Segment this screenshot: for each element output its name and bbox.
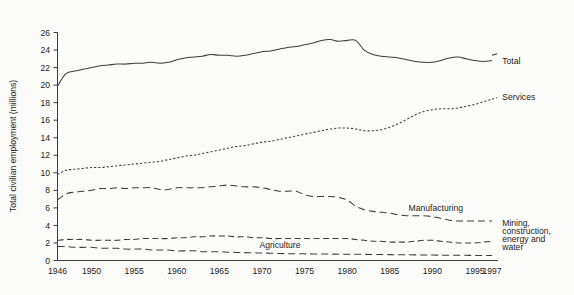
x-tick-label: 1975 <box>295 266 314 276</box>
y-tick-label: 12 <box>40 150 50 160</box>
x-tick-label: 1960 <box>167 266 186 276</box>
y-tick-label: 18 <box>40 98 50 108</box>
series-label-services: Services <box>502 92 535 102</box>
y-tick-label: 10 <box>40 168 50 178</box>
x-tick-label: 1965 <box>210 266 229 276</box>
y-tick-label: 2 <box>45 238 50 248</box>
x-tick-label: 1990 <box>423 266 442 276</box>
series-label-manufacturing: Manufacturing <box>409 203 464 213</box>
x-tick-label: 1970 <box>252 266 271 276</box>
y-tick-label: 4 <box>45 221 50 231</box>
series-label-agriculture: Agriculture <box>259 240 300 250</box>
y-tick-label: 6 <box>45 203 50 213</box>
y-tick-label: 20 <box>40 80 50 90</box>
series-label-total: Total <box>502 56 520 66</box>
chart-container: 02468101214161820222426 1946195019551960… <box>0 0 574 295</box>
y-tick-label: 0 <box>45 256 50 266</box>
y-axis-title: Total civilian employment (millions) <box>8 80 18 212</box>
x-tick-label: 1946 <box>48 266 67 276</box>
y-tick-label: 16 <box>40 115 50 125</box>
series-label-water: water <box>501 242 523 252</box>
x-tick-label: 1980 <box>338 266 357 276</box>
y-tick-label: 24 <box>40 45 50 55</box>
x-tick-label: 1950 <box>82 266 101 276</box>
y-tick-label: 8 <box>45 185 50 195</box>
chart-background <box>0 0 574 295</box>
x-tick-label: 1985 <box>380 266 399 276</box>
employment-line-chart: 02468101214161820222426 1946195019551960… <box>0 0 574 295</box>
x-tick-label: 1955 <box>125 266 144 276</box>
x-tick-label: 1997 <box>482 266 501 276</box>
y-tick-label: 22 <box>40 63 50 73</box>
y-tick-label: 26 <box>40 28 50 38</box>
y-tick-label: 14 <box>40 133 50 143</box>
